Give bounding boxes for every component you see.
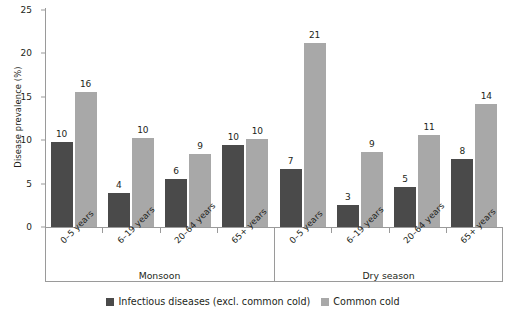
bar-value-label: 6 <box>161 167 191 176</box>
bar-value-label: 21 <box>300 31 330 40</box>
bar <box>75 92 97 227</box>
legend-label: Infectious diseases (excl. common cold) <box>118 296 310 307</box>
bar-value-label: 9 <box>357 140 387 149</box>
group-label: Dry season <box>274 270 503 281</box>
bar-chart: Disease prevalence (%) 0510152025 101641… <box>0 0 506 313</box>
bar <box>475 104 497 227</box>
legend-swatch <box>106 298 114 306</box>
bar-value-label: 3 <box>333 193 363 202</box>
bar-value-label: 11 <box>414 123 444 132</box>
chart-legend: Infectious diseases (excl. common cold)C… <box>0 296 506 307</box>
bar <box>222 145 244 227</box>
legend-item[interactable]: Common cold <box>321 296 399 307</box>
bar-value-label: 14 <box>471 92 501 101</box>
bar <box>451 159 473 227</box>
bar-value-label: 10 <box>47 130 77 139</box>
bar <box>165 179 187 227</box>
bar <box>108 193 130 227</box>
bar-value-label: 10 <box>128 126 158 135</box>
legend-label: Common cold <box>333 296 399 307</box>
bar <box>337 205 359 227</box>
bar <box>280 169 302 227</box>
bar-value-label: 4 <box>104 181 134 190</box>
bar <box>51 142 73 227</box>
bar-value-label: 10 <box>242 127 272 136</box>
bar-value-label: 8 <box>447 147 477 156</box>
bar <box>304 43 326 227</box>
legend-swatch <box>321 298 329 306</box>
bar <box>394 187 416 227</box>
bar-value-label: 9 <box>185 142 215 151</box>
bar-value-label: 7 <box>276 157 306 166</box>
legend-item[interactable]: Infectious diseases (excl. common cold) <box>106 296 310 307</box>
bar-value-label: 16 <box>71 80 101 89</box>
group-label: Monsoon <box>45 270 274 281</box>
bars-layer: 101641069101072139511814 <box>0 0 506 227</box>
bar-value-label: 5 <box>390 175 420 184</box>
